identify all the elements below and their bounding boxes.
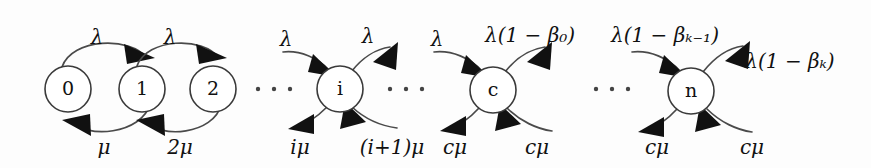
state-node-i[interactable]: i [317, 66, 363, 112]
arrival-rate-label-2: λ [279, 27, 293, 51]
arrival-rate-label-5: λ(1 − β₀) [484, 23, 575, 47]
ellipsis-group-3 [594, 87, 630, 91]
state-node-1-label: 1 [136, 77, 148, 99]
service-rate-label-6: cμ [645, 135, 669, 159]
ellipsis-dot [404, 87, 408, 91]
ellipsis-dot [388, 87, 392, 91]
state-node-c-label: c [488, 78, 499, 100]
state-node-0[interactable]: 0 [45, 66, 91, 112]
ellipsis-dot [610, 87, 614, 91]
diagram-canvas: 0 1 2 i c n [0, 0, 871, 168]
service-rate-label-2: iμ [290, 135, 309, 159]
state-node-i-label: i [337, 77, 343, 99]
ellipsis-dot [594, 87, 598, 91]
service-rate-label-0: μ [98, 135, 111, 159]
ellipsis-dot [256, 87, 260, 91]
arrival-rate-label-3: λ [361, 24, 375, 48]
arrival-rate-label-7: λ(1 − βₖ) [744, 49, 834, 73]
arrival-rate-label-4: λ [430, 27, 444, 51]
state-node-n[interactable]: n [668, 68, 714, 114]
ellipsis-dot [420, 87, 424, 91]
arrival-rate-label-1: λ [163, 25, 177, 49]
ellipsis-group-1 [256, 87, 292, 91]
arrival-rate-label-6: λ(1 − βₖ₋₁) [610, 23, 719, 47]
service-rate-label-1: 2μ [166, 135, 193, 159]
service-rate-label-5: cμ [525, 135, 549, 159]
markov-chain-diagram: 0 1 2 i c n [0, 0, 871, 168]
state-node-n-label: n [685, 79, 697, 101]
ellipsis-dot [288, 87, 292, 91]
service-rate-label-3: (i+1)μ [360, 135, 424, 159]
state-node-1[interactable]: 1 [119, 66, 165, 112]
ellipsis-dot [272, 87, 276, 91]
state-node-c[interactable]: c [470, 67, 516, 113]
arrival-rate-label-0: λ [90, 25, 104, 49]
state-node-2[interactable]: 2 [190, 66, 236, 112]
arrowhead-1-to-2 [196, 44, 227, 64]
ellipsis-dot [626, 87, 630, 91]
service-rate-label-7: cμ [740, 135, 764, 159]
state-node-2-label: 2 [207, 77, 219, 99]
ellipsis-group-2 [388, 87, 424, 91]
arrowhead-c-service-out [440, 116, 466, 136]
arrowhead-out-of-i [373, 42, 398, 70]
arrowhead-2-to-1 [136, 114, 165, 136]
state-node-0-label: 0 [62, 77, 74, 99]
arrowhead-1-to-0 [62, 114, 91, 136]
service-rate-label-4: cμ [443, 135, 467, 159]
arrowhead-i-service-out [288, 114, 314, 134]
